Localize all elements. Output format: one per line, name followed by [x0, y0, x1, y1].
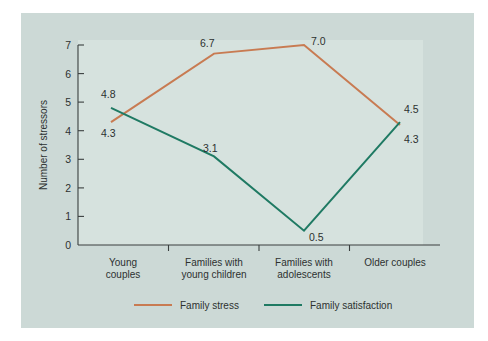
value-label-stress-2: 7.0: [311, 35, 326, 47]
value-label-satisfaction-2: 0.5: [309, 231, 324, 243]
chart-legend: Family stress Family satisfaction: [134, 300, 392, 311]
y-tick-label-3: 3: [65, 153, 71, 165]
y-tick-label-4: 4: [65, 125, 71, 137]
y-axis-ticks: [78, 45, 84, 216]
category-label-0-line1: Young: [109, 257, 137, 268]
category-label-2-line2: adolescents: [277, 269, 330, 280]
y-tick-label-7: 7: [65, 39, 71, 51]
category-label-0-line2: couples: [106, 269, 140, 280]
value-label-stress-0: 4.3: [101, 127, 116, 139]
series-line-family-satisfaction: [111, 108, 400, 231]
category-label-1-line2: young children: [181, 269, 246, 280]
value-labels-family-satisfaction: 4.8 3.1 0.5 4.3: [101, 88, 419, 243]
value-label-stress-3: 4.5: [404, 103, 419, 115]
value-labels-family-stress: 4.3 6.7 7.0 4.5: [101, 35, 419, 139]
value-label-stress-1: 6.7: [200, 37, 215, 49]
y-tick-label-1: 1: [65, 210, 71, 222]
value-label-satisfaction-1: 3.1: [203, 142, 218, 154]
y-axis-tick-labels: 7 6 5 4 3 2 1 0: [65, 39, 71, 251]
legend-label-family-satisfaction: Family satisfaction: [310, 300, 392, 311]
x-axis-ticks: [169, 245, 350, 251]
value-label-satisfaction-3: 4.3: [404, 133, 419, 145]
category-label-2-line1: Families with: [275, 257, 333, 268]
y-tick-label-5: 5: [65, 96, 71, 108]
y-tick-label-0: 0: [65, 239, 71, 251]
figure-container: 7 6 5 4 3 2 1 0 Number of stressors 4.3 …: [0, 0, 488, 341]
series-line-family-stress: [111, 45, 400, 125]
legend-label-family-stress: Family stress: [180, 300, 239, 311]
line-chart: 7 6 5 4 3 2 1 0 Number of stressors 4.3 …: [0, 0, 488, 341]
y-axis-title: Number of stressors: [38, 100, 49, 190]
value-label-satisfaction-0: 4.8: [101, 88, 116, 100]
y-tick-label-2: 2: [65, 182, 71, 194]
x-axis-category-labels: Young couples Families with young childr…: [106, 257, 426, 280]
y-tick-label-6: 6: [65, 68, 71, 80]
category-label-1-line1: Families with: [185, 257, 243, 268]
category-label-3-line1: Older couples: [364, 257, 426, 268]
